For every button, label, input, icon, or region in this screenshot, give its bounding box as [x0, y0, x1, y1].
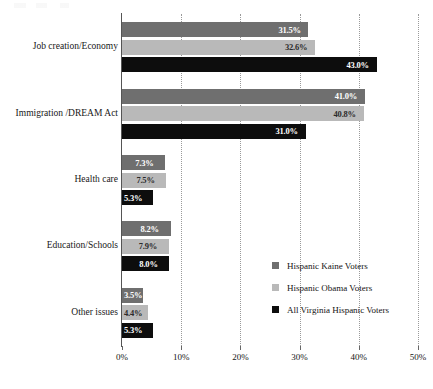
legend-label: Hispanic Obama Voters — [287, 283, 372, 293]
bar-value-label: 31.0% — [276, 126, 298, 136]
category-label: Immigration /DREAM Act — [2, 108, 118, 118]
bar-value-label: 4.4% — [124, 308, 142, 318]
category-label: Health care — [2, 174, 118, 184]
x-tick — [300, 346, 301, 350]
bar-row: 5.3% — [122, 190, 418, 205]
bar-row: 7.5% — [122, 173, 418, 188]
x-tick — [359, 346, 360, 350]
x-tick-label: 40% — [351, 352, 368, 362]
x-tick — [418, 346, 419, 350]
bar-value-label: 8.0% — [139, 259, 157, 269]
bar-value-label: 7.9% — [139, 241, 157, 251]
legend-swatch-icon — [272, 306, 279, 313]
legend-swatch-icon — [272, 262, 279, 269]
x-tick-label: 10% — [173, 352, 190, 362]
legend-item[interactable]: Hispanic Kaine Voters — [272, 258, 422, 273]
bar-row: 7.9% — [122, 239, 418, 254]
legend-item[interactable]: Hispanic Obama Voters — [272, 280, 422, 295]
bar-row: 8.2% — [122, 221, 418, 236]
bar-value-label: 40.8% — [334, 109, 356, 119]
legend-item[interactable]: All Virginia Hispanic Voters — [272, 302, 422, 317]
x-tick-label: 20% — [232, 352, 249, 362]
category-label: Other issues — [2, 307, 118, 317]
x-tick-label: 0% — [116, 352, 128, 362]
bar-value-label: 5.3% — [124, 325, 142, 335]
bar-row: 32.6% — [122, 40, 418, 55]
x-tick — [122, 346, 123, 350]
bar-value-label: 7.5% — [136, 175, 154, 185]
bar-value-label: 3.5% — [124, 290, 142, 300]
bar-row: 31.5% — [122, 22, 418, 37]
bar-chart: Job creation/EconomyImmigration /DREAM A… — [0, 0, 433, 389]
x-tick — [240, 346, 241, 350]
bar-value-label: 32.6% — [285, 42, 307, 52]
bar-row: 5.3% — [122, 323, 418, 338]
bar-row: 31.0% — [122, 124, 418, 139]
bar[interactable] — [122, 89, 365, 104]
bar-value-label: 7.3% — [135, 158, 153, 168]
bar-value-label: 5.3% — [124, 193, 142, 203]
category-label: Education/Schools — [2, 240, 118, 250]
x-axis: 0%10%20%30%40%50% — [122, 346, 418, 366]
legend-label: Hispanic Kaine Voters — [287, 261, 368, 271]
bar-row: 7.3% — [122, 155, 418, 170]
chart-legend: Hispanic Kaine VotersHispanic Obama Vote… — [272, 258, 422, 324]
legend-swatch-icon — [272, 284, 279, 291]
legend-label: All Virginia Hispanic Voters — [287, 305, 389, 315]
scan-artifact — [14, 3, 88, 8]
bar-value-label: 31.5% — [278, 25, 300, 35]
bar[interactable] — [122, 57, 377, 72]
bar-value-label: 43.0% — [347, 60, 369, 70]
bar-row: 41.0% — [122, 89, 418, 104]
bar-row: 43.0% — [122, 57, 418, 72]
bar-value-label: 41.0% — [335, 91, 357, 101]
x-tick-label: 30% — [291, 352, 308, 362]
x-tick-label: 50% — [410, 352, 427, 362]
bar-value-label: 8.2% — [141, 224, 159, 234]
category-label: Job creation/Economy — [2, 41, 118, 51]
bar-row: 40.8% — [122, 106, 418, 121]
bar[interactable] — [122, 106, 364, 121]
x-tick — [181, 346, 182, 350]
category-label-group: Job creation/EconomyImmigration /DREAM A… — [0, 14, 118, 346]
